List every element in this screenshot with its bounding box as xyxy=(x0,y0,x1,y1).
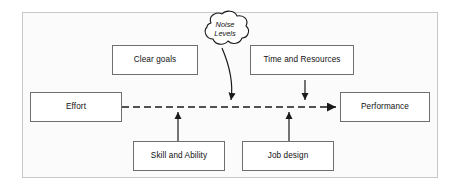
node-performance[interactable]: Performance xyxy=(340,92,430,122)
node-time-and-resources[interactable]: Time and Resources xyxy=(250,45,354,75)
node-job-design-label: Job design xyxy=(268,152,309,160)
node-clear-goals-label: Clear goals xyxy=(134,56,177,64)
node-skill-and-ability[interactable]: Skill and Ability xyxy=(133,141,225,171)
node-job-design[interactable]: Job design xyxy=(242,141,334,171)
node-effort-label: Effort xyxy=(66,103,86,111)
noise-levels-label: Noise Levels xyxy=(198,10,252,50)
node-time-and-resources-label: Time and Resources xyxy=(263,56,340,64)
noise-levels-cloud: Noise Levels xyxy=(198,10,252,50)
diagram-canvas: Noise Levels Clear goals Time and Resour… xyxy=(0,0,458,192)
node-clear-goals[interactable]: Clear goals xyxy=(112,45,198,75)
cloud-line-2: Levels xyxy=(214,30,235,39)
node-performance-label: Performance xyxy=(361,103,409,111)
node-skill-and-ability-label: Skill and Ability xyxy=(151,152,207,160)
node-effort[interactable]: Effort xyxy=(30,92,122,122)
